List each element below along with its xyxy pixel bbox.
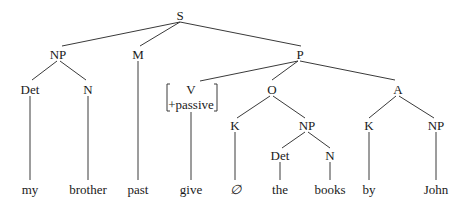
node-det-subject: Det <box>21 83 40 96</box>
leaf-books: books <box>314 183 345 196</box>
leaf-the: the <box>272 183 288 196</box>
edge-np-det <box>32 61 57 80</box>
edge-np-n <box>60 61 86 80</box>
edge-s-np <box>62 22 180 46</box>
node-k-agent: K <box>364 119 373 132</box>
leaf-past: past <box>128 183 149 196</box>
edge-p-v <box>200 61 298 81</box>
edge-s-p <box>180 22 301 46</box>
node-k-object: K <box>230 119 239 132</box>
node-n-subject: N <box>83 83 92 96</box>
leaf-by: by <box>363 183 376 196</box>
node-s: S <box>176 9 183 22</box>
node-det-object: Det <box>271 149 290 162</box>
node-v: V <box>186 83 195 96</box>
edge-o-k <box>237 96 270 118</box>
feature-bracket-right <box>214 84 217 111</box>
node-np-subject: NP <box>50 48 67 61</box>
edge-np-det2 <box>282 132 305 148</box>
node-m: M <box>132 48 144 61</box>
node-np-agent: NP <box>428 119 445 132</box>
leaf-john: John <box>424 183 449 196</box>
edge-a-np <box>399 96 434 118</box>
tree-edges <box>0 0 465 204</box>
edge-np-n2 <box>308 132 330 148</box>
edge-p-a <box>300 61 395 80</box>
node-o: O <box>267 83 276 96</box>
node-n-object: N <box>325 149 334 162</box>
node-a: A <box>393 83 402 96</box>
node-np-object: NP <box>299 119 316 132</box>
leaf-give: give <box>180 183 202 196</box>
node-p: P <box>296 48 303 61</box>
edge-a-k <box>369 96 396 118</box>
leaf-my: my <box>22 183 39 196</box>
edge-o-np <box>273 96 305 118</box>
leaf-brother: brother <box>69 183 107 196</box>
syntax-tree-diagram: S NP M P Det N V +passive O A K NP K NP … <box>0 0 465 204</box>
leaf-null: ∅ <box>230 183 241 196</box>
node-v-feature: +passive <box>168 98 214 111</box>
